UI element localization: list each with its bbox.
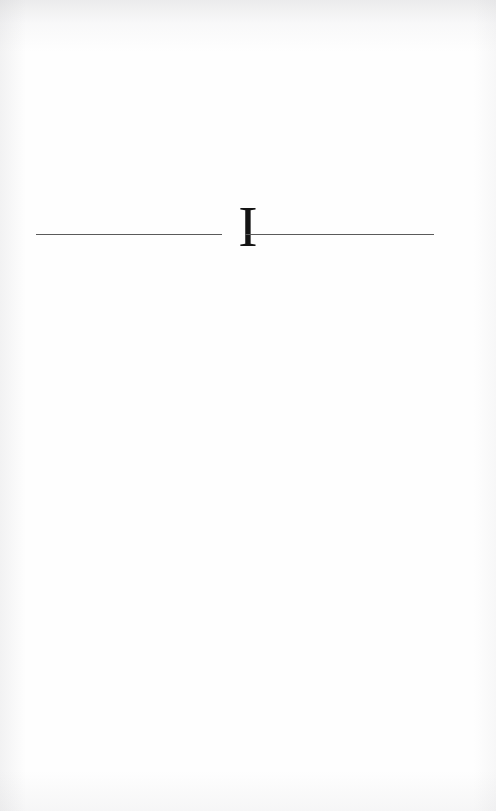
book-part-divider-page: I — [0, 0, 496, 811]
left-horizontal-rule — [36, 234, 222, 235]
scan-edge-shading-left — [0, 0, 26, 811]
scan-edge-shading-right — [474, 0, 496, 811]
part-divider-ornament: I — [0, 0, 496, 811]
scan-edge-shading-bottom — [0, 771, 496, 811]
part-number-numeral: I — [0, 198, 496, 256]
right-horizontal-rule — [245, 234, 434, 235]
scan-edge-shading-top — [0, 0, 496, 52]
